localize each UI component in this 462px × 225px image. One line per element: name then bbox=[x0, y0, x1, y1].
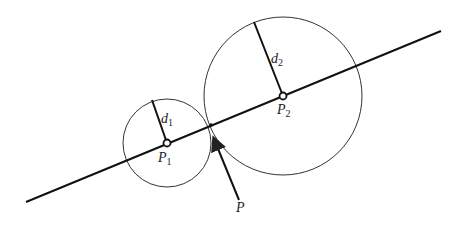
diagram-svg: d1 P1 d2 P2 P bbox=[0, 0, 462, 225]
label-p1: P1 bbox=[157, 150, 172, 167]
center-line bbox=[26, 31, 441, 202]
center-point-p2 bbox=[280, 93, 287, 100]
diagram-canvas: d1 P1 d2 P2 P bbox=[0, 0, 462, 225]
label-d2: d2 bbox=[271, 51, 283, 68]
label-p2: P2 bbox=[276, 102, 291, 119]
label-p: P bbox=[235, 200, 245, 215]
label-d1: d1 bbox=[161, 111, 173, 128]
tangent-point bbox=[209, 123, 213, 127]
center-point-p1 bbox=[164, 140, 171, 147]
arrow-to-p bbox=[214, 139, 239, 200]
